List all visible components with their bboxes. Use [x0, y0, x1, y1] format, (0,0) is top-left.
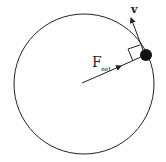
ball	[140, 49, 152, 61]
velocity-label: v	[130, 3, 138, 16]
circular-motion-diagram: v F net	[0, 0, 166, 162]
force-subscript: net	[101, 65, 111, 72]
circular-path	[14, 14, 154, 154]
